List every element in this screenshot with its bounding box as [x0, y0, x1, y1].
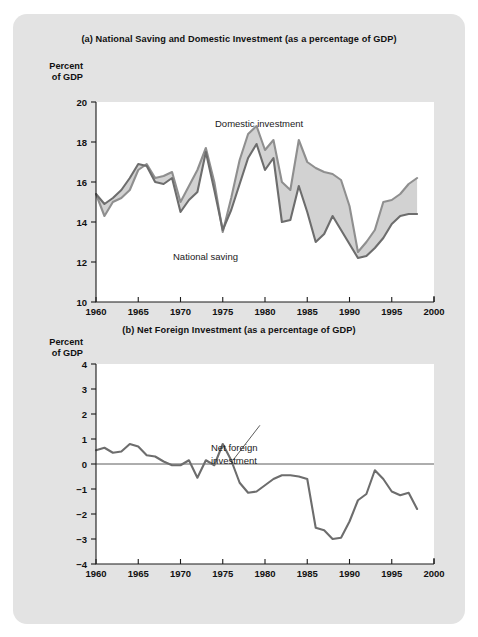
panel-b-y-tick-labels: 43210−1−2−3−4 — [76, 359, 88, 570]
y-tick-label: 4 — [82, 359, 88, 370]
y-tick-label: 18 — [76, 137, 87, 148]
panel-b-axis-caption-line1: Percent — [49, 337, 83, 347]
panel-a-y-tick-labels: 201816141210 — [76, 97, 87, 308]
y-tick-label: −2 — [76, 509, 87, 520]
x-tick-label: 1995 — [381, 568, 403, 579]
x-tick-label: 1975 — [212, 568, 234, 579]
x-tick-label: 1980 — [254, 568, 275, 579]
x-tick-label: 1965 — [128, 568, 150, 579]
y-tick-label: 12 — [76, 257, 87, 268]
y-tick-label: −3 — [76, 534, 87, 545]
x-tick-label: 1990 — [339, 568, 360, 579]
panel-a-label-national-saving: National saving — [173, 251, 238, 262]
y-tick-label: 14 — [76, 217, 87, 228]
panel-b-axis-caption-line2: of GDP — [52, 348, 83, 358]
y-tick-label: 1 — [82, 434, 88, 445]
panel-a-axis-caption-line2: of GDP — [52, 72, 83, 82]
y-tick-label: 3 — [82, 384, 87, 395]
y-tick-label: 2 — [82, 409, 87, 420]
y-tick-label: 16 — [76, 177, 87, 188]
panel-a-label-domestic-investment: Domestic investment — [215, 118, 304, 129]
x-tick-label: 1985 — [297, 568, 319, 579]
chart-panel-b: 43210−1−2−3−4 19601965197019751980198519… — [13, 314, 465, 614]
panel-b-label-line2: investment — [211, 455, 257, 466]
chart-panel-a: 201816141210 196019651970197519801985199… — [13, 14, 465, 314]
y-tick-label: 0 — [82, 459, 87, 470]
x-tick-label: 2000 — [423, 568, 444, 579]
y-tick-label: 20 — [76, 97, 87, 108]
x-tick-label: 1960 — [85, 568, 106, 579]
panel-a-axis-caption-line1: Percent — [49, 61, 83, 71]
panel-b-label-line1: Net foreign — [211, 442, 257, 453]
y-tick-label: −1 — [76, 484, 88, 495]
x-tick-label: 1970 — [170, 568, 191, 579]
panel-b-x-tick-labels: 196019651970197519801985199019952000 — [85, 568, 444, 579]
figure-container: (a) National Saving and Domestic Investm… — [13, 14, 465, 624]
